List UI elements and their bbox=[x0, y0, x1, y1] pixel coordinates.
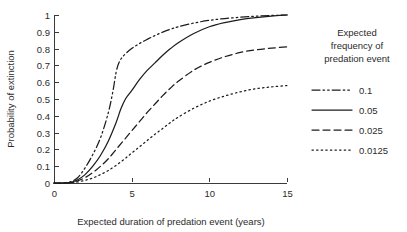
axes bbox=[55, 15, 288, 184]
y-tick-label: 0.3 bbox=[37, 128, 50, 139]
chart-figure: 00.10.20.30.40.50.60.70.80.91 051015 Exp… bbox=[0, 0, 407, 232]
curve-0-1 bbox=[54, 15, 287, 183]
data-curves bbox=[54, 15, 287, 183]
y-tick-label: 0.9 bbox=[37, 27, 50, 38]
legend: Expected frequency of predation event 0.… bbox=[312, 27, 390, 156]
x-tick-label: 0 bbox=[52, 188, 57, 199]
y-tick-label: 0 bbox=[45, 178, 50, 189]
y-tick-label: 1 bbox=[45, 10, 50, 21]
y-tick-label: 0.1 bbox=[37, 161, 50, 172]
legend-title-line-1: Expected bbox=[337, 27, 377, 38]
x-axis-title: Expected duration of predation event (ye… bbox=[77, 216, 264, 227]
tick-marks bbox=[55, 16, 288, 184]
x-tick-label: 10 bbox=[205, 188, 216, 199]
legend-label-0-05: 0.05 bbox=[359, 105, 378, 116]
y-tick-label: 0.5 bbox=[37, 94, 50, 105]
y-tick-label: 0.7 bbox=[37, 60, 50, 71]
curve-0-05 bbox=[54, 15, 287, 183]
x-tick-labels: 051015 bbox=[52, 188, 293, 199]
y-tick-label: 0.8 bbox=[37, 44, 50, 55]
legend-label-0-1: 0.1 bbox=[359, 85, 372, 96]
legend-entries: 0.10.050.0250.0125 bbox=[312, 85, 388, 156]
y-tick-label: 0.4 bbox=[37, 111, 50, 122]
legend-label-0-0125: 0.0125 bbox=[359, 145, 388, 156]
legend-title-line-2: frequency of bbox=[331, 40, 384, 51]
line-chart: 00.10.20.30.40.50.60.70.80.91 051015 Exp… bbox=[0, 0, 407, 232]
x-tick-label: 15 bbox=[282, 188, 293, 199]
x-tick-label: 5 bbox=[130, 188, 135, 199]
curve-0-0125 bbox=[54, 86, 287, 183]
y-tick-label: 0.2 bbox=[37, 144, 50, 155]
y-tick-label: 0.6 bbox=[37, 77, 50, 88]
y-tick-labels: 00.10.20.30.40.50.60.70.80.91 bbox=[37, 10, 50, 189]
legend-title-line-3: predation event bbox=[324, 53, 390, 64]
y-axis-title: Probability of extinction bbox=[5, 50, 16, 148]
legend-label-0-025: 0.025 bbox=[359, 125, 383, 136]
